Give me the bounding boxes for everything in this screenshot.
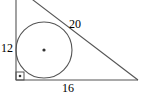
hypotenuse-length-label: 20 [69, 18, 81, 30]
triangle-side-hypotenuse [16, 0, 138, 80]
geometry-figure: 12 16 20 [0, 0, 143, 96]
circle-center-dot [42, 48, 45, 51]
horizontal-leg-length-label: 16 [62, 82, 74, 94]
vertical-leg-length-label: 12 [1, 42, 13, 54]
right-angle-marker-dot [19, 75, 22, 78]
